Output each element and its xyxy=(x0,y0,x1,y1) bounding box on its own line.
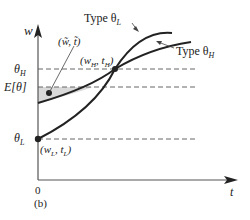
type-theta-l-subscript: L xyxy=(117,18,121,27)
origin-label: 0 xyxy=(35,185,41,196)
type-theta-l-label: Type θL xyxy=(84,12,121,27)
expected-theta-label: E[θ] xyxy=(4,81,27,93)
type-theta-h-label: Type θH xyxy=(176,45,214,60)
type-theta-h-text: Type θ xyxy=(176,44,209,58)
theta-h-label: θH xyxy=(14,63,26,78)
theta-l-leader-arrow-icon xyxy=(133,26,139,32)
signaling-diagram: w t 0 (b) θH E[θ] θL Type θL Type θH (w̃… xyxy=(0,0,250,220)
low-label-close: ) xyxy=(67,143,71,155)
panel-label: (b) xyxy=(34,198,47,209)
high-label-open: (w xyxy=(80,54,91,66)
theta-l-label: θL xyxy=(14,132,24,147)
pooling-point-label: (w̃, t̃) xyxy=(58,36,80,47)
high-label-close: ) xyxy=(110,54,114,66)
type-theta-h-subscript: H xyxy=(209,51,215,60)
theta-h-subscript: H xyxy=(20,69,26,78)
point-low xyxy=(35,136,41,142)
high-label-mid: , t xyxy=(96,54,105,66)
theta-l-subscript: L xyxy=(20,138,24,147)
y-axis-label: w xyxy=(24,24,33,37)
high-point-label: (wH, tH) xyxy=(80,55,113,69)
type-theta-l-text: Type θ xyxy=(84,11,117,25)
low-label-open: (w xyxy=(40,143,51,155)
x-axis-label: t xyxy=(230,186,233,198)
type-theta-l-curve xyxy=(38,33,172,139)
low-point-label: (wL, tL) xyxy=(40,144,71,158)
